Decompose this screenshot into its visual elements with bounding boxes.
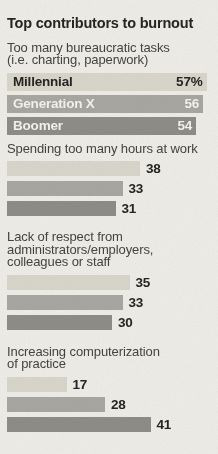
bar-row: 30 [7,315,213,330]
chart-group: Spending too many hours at work383331 [7,143,213,217]
bar-value-label: 54 [177,118,192,133]
group-label: Increasing computerization of practice [7,346,213,371]
group-label: Spending too many hours at work [7,143,213,156]
bar-row: 28 [7,397,213,412]
bar-row: 17 [7,377,213,392]
bar-value-label: 38 [146,161,161,176]
bar-value-label: 57% [176,74,202,89]
bar-generation-x: Generation X56 [7,95,203,113]
bar-value-label: 17 [73,377,88,392]
bar-category-label: Boomer [13,118,63,133]
bar-category-label: Millennial [13,74,73,89]
bar-value-label: 35 [136,275,151,290]
bar-category-label: Generation X [13,96,95,111]
bar-row: Millennial57% [7,73,213,91]
bar-generation-x [7,397,105,412]
bar-boomer [7,201,116,216]
group-label: Lack of respect from administrators/empl… [7,231,213,269]
bar-generation-x [7,181,123,196]
bar-boomer [7,417,151,432]
bar-millennial [7,275,130,290]
bar-row: Boomer54 [7,117,213,135]
bar-value-label: 28 [111,397,126,412]
bar-row: 33 [7,295,213,310]
bar-value-label: 56 [184,96,199,111]
bar-value-label: 31 [122,201,137,216]
bar-generation-x [7,295,123,310]
bar-millennial: Millennial57% [7,73,207,91]
bar-row: 38 [7,161,213,176]
bar-boomer [7,315,112,330]
bar-value-label: 41 [157,417,172,432]
group-label: Too many bureaucratic tasks (i.e. charti… [7,42,213,67]
chart-groups: Too many bureaucratic tasks (i.e. charti… [7,42,213,432]
burnout-bar-chart: Top contributors to burnout Too many bur… [0,0,218,454]
bar-millennial [7,161,140,176]
chart-group: Increasing computerization of practice17… [7,346,213,432]
bar-row: 41 [7,417,213,432]
chart-group: Lack of respect from administrators/empl… [7,231,213,330]
bar-boomer: Boomer54 [7,117,196,135]
bar-value-label: 33 [129,181,144,196]
bar-value-label: 33 [129,295,144,310]
chart-title: Top contributors to burnout [7,15,213,32]
bar-value-label: 30 [118,315,133,330]
bar-row: Generation X56 [7,95,213,113]
bar-row: 33 [7,181,213,196]
chart-group: Too many bureaucratic tasks (i.e. charti… [7,42,213,135]
bar-millennial [7,377,67,392]
bar-row: 31 [7,201,213,216]
bar-row: 35 [7,275,213,290]
